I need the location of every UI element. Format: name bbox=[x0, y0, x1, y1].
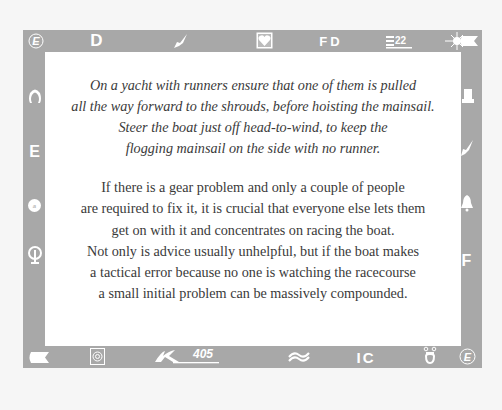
body-line: a tactical error because no one is watch… bbox=[45, 262, 461, 283]
italic-line: all the way forward to the shrouds, befo… bbox=[45, 96, 461, 117]
letter-d-icon: D bbox=[89, 32, 105, 50]
body-line: get on with it and concentrates on racin… bbox=[45, 220, 461, 241]
decorative-frame: E D FD 22 F E a 405 bbox=[23, 30, 482, 368]
k405-logo-icon: 405 bbox=[153, 346, 221, 366]
bell-icon bbox=[460, 194, 474, 212]
e-circle-icon: E bbox=[459, 348, 476, 365]
letter-e-icon: E bbox=[28, 143, 42, 161]
svg-text:405: 405 bbox=[192, 347, 213, 361]
svg-text:22: 22 bbox=[395, 35, 407, 46]
italic-tip-paragraph: On a yacht with runners ensure that one … bbox=[45, 75, 461, 159]
wave-icon bbox=[288, 349, 310, 363]
tip-text: On a yacht with runners ensure that one … bbox=[45, 52, 461, 346]
flag-pennant-icon bbox=[459, 35, 479, 47]
letter-f-icon: F bbox=[460, 252, 474, 270]
body-line: Not only is advice usually unhelpful, bu… bbox=[45, 241, 461, 262]
bird-icon bbox=[171, 32, 191, 50]
svg-text:E: E bbox=[464, 351, 472, 363]
circle-badge-icon: a bbox=[27, 198, 42, 213]
letter-fd-icon: FD bbox=[318, 33, 344, 49]
e22-icon: 22 bbox=[385, 33, 413, 49]
pennant-icon bbox=[28, 351, 50, 364]
letter-ic-icon: IC bbox=[356, 348, 376, 366]
svg-text:E: E bbox=[32, 35, 40, 47]
italic-line: flogging mainsail on the side with no ru… bbox=[45, 138, 461, 159]
omega-arch-icon bbox=[27, 87, 43, 105]
body-tip-paragraph: If there is a gear problem and only a co… bbox=[45, 177, 461, 305]
anchor-ring-icon bbox=[27, 245, 43, 265]
italic-line: On a yacht with runners ensure that one … bbox=[45, 75, 461, 96]
italic-line: Steer the boat just off head-to-wind, to… bbox=[45, 117, 461, 138]
e-circle-icon: E bbox=[28, 33, 44, 49]
omega-bell-icon bbox=[423, 346, 437, 366]
body-line: If there is a gear problem and only a co… bbox=[45, 177, 461, 198]
body-line: a small initial problem can be massively… bbox=[45, 283, 461, 304]
spiral-box-icon bbox=[90, 348, 105, 365]
hat-icon bbox=[461, 88, 475, 104]
heart-box-icon bbox=[256, 32, 273, 49]
body-line: are required to fix it, it is crucial th… bbox=[45, 198, 461, 219]
bird-icon bbox=[459, 138, 475, 158]
